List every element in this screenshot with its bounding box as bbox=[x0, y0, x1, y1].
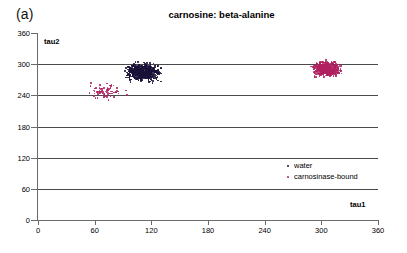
data-point-outlier bbox=[102, 89, 104, 91]
x-tick-label-300: 300 bbox=[306, 226, 336, 235]
data-point bbox=[332, 63, 334, 65]
data-point-outlier bbox=[125, 90, 127, 92]
data-point-outlier bbox=[97, 93, 99, 95]
x-tick-label-120: 120 bbox=[136, 226, 166, 235]
data-point-outlier bbox=[116, 87, 118, 89]
data-point bbox=[157, 76, 159, 78]
data-point-outlier bbox=[108, 99, 110, 101]
data-point bbox=[154, 74, 156, 76]
y-tick-360 bbox=[31, 33, 37, 34]
data-point bbox=[160, 67, 162, 69]
data-point-outlier bbox=[106, 83, 108, 85]
data-point bbox=[129, 71, 131, 73]
x-tick-label-360: 360 bbox=[363, 226, 393, 235]
legend-label: water bbox=[294, 161, 312, 170]
data-point bbox=[154, 71, 156, 73]
data-point-outlier bbox=[106, 91, 108, 93]
data-point bbox=[127, 74, 129, 76]
data-point bbox=[129, 67, 131, 69]
data-point bbox=[158, 71, 160, 73]
data-point-outlier bbox=[89, 92, 91, 94]
x-tick-0 bbox=[38, 221, 39, 225]
gridline-y-60 bbox=[38, 189, 378, 190]
y-tick-label-360: 360 bbox=[2, 29, 30, 38]
gridline-y-180 bbox=[38, 127, 378, 128]
legend-item-0[interactable]: water bbox=[287, 160, 358, 171]
data-point bbox=[321, 61, 323, 63]
data-point bbox=[317, 73, 319, 75]
x-tick-label-180: 180 bbox=[193, 226, 223, 235]
data-point-outlier bbox=[97, 97, 99, 99]
data-point bbox=[160, 81, 162, 83]
data-point-outlier bbox=[90, 82, 92, 84]
gridline-y-120 bbox=[38, 158, 378, 159]
data-point-outlier bbox=[107, 93, 109, 95]
data-point-outlier bbox=[116, 90, 118, 92]
data-point bbox=[139, 75, 141, 77]
data-point-outlier bbox=[94, 93, 96, 95]
data-point bbox=[330, 75, 332, 77]
data-point-outlier bbox=[108, 88, 110, 90]
x-tick-360 bbox=[378, 221, 379, 225]
data-point-outlier bbox=[126, 94, 128, 96]
data-point bbox=[142, 69, 144, 71]
legend: watercarnosinase-bound bbox=[287, 160, 358, 182]
data-point-outlier bbox=[103, 87, 105, 89]
x-tick-60 bbox=[95, 221, 96, 225]
data-point bbox=[149, 75, 151, 77]
data-point bbox=[148, 65, 150, 67]
data-point bbox=[335, 74, 337, 76]
y-axis-labels: 060120180240300360 bbox=[0, 0, 30, 253]
data-point bbox=[143, 77, 145, 79]
x-tick-240 bbox=[265, 221, 266, 225]
x-tick-label-0: 0 bbox=[23, 226, 53, 235]
data-point bbox=[319, 62, 321, 64]
data-point bbox=[320, 75, 322, 77]
y-tick-label-180: 180 bbox=[2, 123, 30, 132]
data-point bbox=[310, 66, 312, 68]
data-point-outlier bbox=[113, 96, 115, 98]
figure-panel: (a) carnosine: beta-alanine 060120180240… bbox=[0, 0, 407, 253]
data-point bbox=[320, 73, 322, 75]
data-point-outlier bbox=[106, 96, 108, 98]
data-point bbox=[137, 70, 139, 72]
data-point bbox=[130, 81, 132, 83]
data-point-outlier bbox=[90, 85, 92, 87]
data-point bbox=[336, 69, 338, 71]
legend-item-1[interactable]: carnosinase-bound bbox=[287, 171, 358, 182]
data-point bbox=[339, 72, 341, 74]
y-tick-60 bbox=[31, 189, 37, 190]
x-tick-label-240: 240 bbox=[250, 226, 280, 235]
plot-area bbox=[38, 33, 378, 220]
x-tick-label-60: 60 bbox=[80, 226, 110, 235]
y-axis-title: tau2 bbox=[44, 37, 59, 46]
y-tick-label-300: 300 bbox=[2, 60, 30, 69]
x-axis-title: tau1 bbox=[350, 200, 365, 209]
data-point bbox=[333, 65, 335, 67]
data-point bbox=[137, 61, 139, 63]
y-tick-180 bbox=[31, 127, 37, 128]
data-point bbox=[321, 64, 323, 66]
data-point bbox=[340, 70, 342, 72]
data-point bbox=[140, 79, 142, 81]
data-point-outlier bbox=[102, 92, 104, 94]
data-point-outlier bbox=[110, 87, 112, 89]
y-tick-300 bbox=[31, 64, 37, 65]
data-point bbox=[327, 69, 329, 71]
gridline-y-240 bbox=[38, 95, 378, 96]
y-tick-label-0: 0 bbox=[2, 216, 30, 225]
y-tick-0 bbox=[31, 220, 37, 221]
data-point bbox=[157, 80, 159, 82]
data-point bbox=[132, 65, 134, 67]
data-point-outlier bbox=[118, 93, 120, 95]
data-point bbox=[328, 72, 330, 74]
data-point bbox=[323, 76, 325, 78]
data-point bbox=[318, 66, 320, 68]
y-tick-label-120: 120 bbox=[2, 154, 30, 163]
data-point bbox=[137, 73, 139, 75]
y-tick-240 bbox=[31, 95, 37, 96]
data-point bbox=[152, 82, 154, 84]
data-point bbox=[152, 74, 154, 76]
data-point bbox=[125, 77, 127, 79]
data-point bbox=[314, 71, 316, 73]
